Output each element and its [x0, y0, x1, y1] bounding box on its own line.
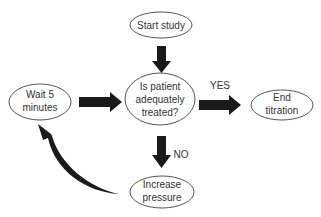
arrow-right-icon — [79, 92, 122, 112]
node-end-label-line2: titration — [266, 105, 299, 116]
node-increase: Increase pressure — [130, 176, 194, 208]
arrow-down-icon — [152, 46, 171, 73]
arrow-down-icon — [152, 136, 171, 168]
node-wait: Wait 5 minutes — [9, 84, 71, 120]
edge-label-no: NO — [174, 149, 189, 160]
node-end: End titration — [251, 90, 313, 120]
node-decision-label-line1: Is patient — [140, 81, 181, 92]
node-increase-label-line1: Increase — [143, 179, 182, 190]
node-wait-label-line2: minutes — [22, 102, 57, 113]
curved-arrow-icon — [38, 124, 119, 194]
node-increase-label-line2: pressure — [143, 192, 182, 203]
flowchart: Start study Is patient adequately treate… — [0, 0, 321, 217]
node-decision-label-line3: treated? — [142, 107, 179, 118]
edge-label-yes: YES — [210, 80, 230, 91]
arrow-right-icon — [199, 95, 241, 115]
node-start-study: Start study — [130, 12, 192, 38]
node-end-label-line1: End — [273, 92, 291, 103]
node-start-study-label: Start study — [137, 20, 185, 31]
node-decision-label-line2: adequately — [136, 94, 185, 105]
node-wait-label-line1: Wait 5 — [26, 89, 54, 100]
node-decision: Is patient adequately treated? — [125, 73, 195, 125]
